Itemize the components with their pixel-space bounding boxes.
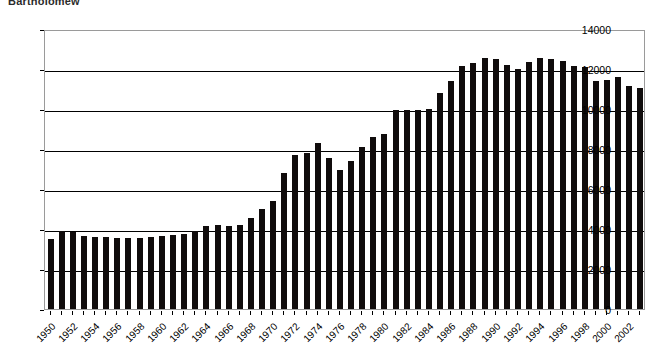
bar bbox=[215, 225, 221, 309]
bar bbox=[137, 238, 143, 309]
y-axis-tick-label: 14000 bbox=[551, 25, 611, 35]
x-axis-tick-mark bbox=[439, 311, 440, 315]
x-axis-tick-mark bbox=[495, 311, 496, 315]
x-axis-tick-mark bbox=[617, 311, 618, 315]
x-axis-tick-mark bbox=[584, 311, 585, 315]
x-axis-tick-mark bbox=[517, 311, 518, 315]
y-axis-tick-label: 2000 bbox=[551, 265, 611, 275]
x-axis-tick-mark bbox=[150, 311, 151, 315]
bar bbox=[459, 66, 465, 309]
x-axis-tick-mark bbox=[250, 311, 251, 315]
x-axis-tick-mark bbox=[550, 311, 551, 315]
x-axis-tick-mark bbox=[639, 311, 640, 315]
bar bbox=[248, 218, 254, 309]
x-axis-tick-mark bbox=[573, 311, 574, 315]
bar bbox=[270, 201, 276, 309]
x-axis-tick-mark bbox=[105, 311, 106, 315]
x-axis-tick-mark bbox=[306, 311, 307, 315]
bar bbox=[470, 63, 476, 309]
y-axis-tick-mark bbox=[40, 310, 44, 311]
x-axis-tick-mark bbox=[94, 311, 95, 315]
x-axis-tick-mark bbox=[261, 311, 262, 315]
bar bbox=[48, 239, 54, 309]
x-axis-tick-mark bbox=[294, 311, 295, 315]
x-axis-tick-mark bbox=[406, 311, 407, 315]
bar bbox=[515, 69, 521, 309]
bar bbox=[304, 153, 310, 309]
x-axis-tick-mark bbox=[606, 311, 607, 315]
x-axis-tick-mark bbox=[461, 311, 462, 315]
x-axis-tick-mark bbox=[127, 311, 128, 315]
y-axis-tick-mark bbox=[40, 230, 44, 231]
x-axis-tick-mark bbox=[139, 311, 140, 315]
bar bbox=[404, 110, 410, 309]
x-axis-tick-mark bbox=[317, 311, 318, 315]
x-axis-tick-mark bbox=[194, 311, 195, 315]
bar bbox=[226, 226, 232, 309]
y-axis-tick-mark bbox=[40, 150, 44, 151]
bar bbox=[326, 158, 332, 309]
x-axis-tick-mark bbox=[50, 311, 51, 315]
bar bbox=[337, 170, 343, 309]
bar bbox=[493, 59, 499, 309]
x-axis-tick-mark bbox=[205, 311, 206, 315]
bar bbox=[70, 232, 76, 309]
x-axis-tick-mark bbox=[350, 311, 351, 315]
y-axis-tick-label: 4000 bbox=[551, 225, 611, 235]
bar bbox=[181, 234, 187, 309]
bar bbox=[526, 62, 532, 309]
bar bbox=[281, 173, 287, 309]
bar bbox=[348, 161, 354, 309]
x-axis-tick-mark bbox=[562, 311, 563, 315]
x-axis-tick-mark bbox=[595, 311, 596, 315]
bar bbox=[192, 231, 198, 309]
x-axis-tick-mark bbox=[283, 311, 284, 315]
x-axis-tick-mark bbox=[428, 311, 429, 315]
x-axis-tick-mark bbox=[372, 311, 373, 315]
x-axis-tick-mark bbox=[628, 311, 629, 315]
bar bbox=[203, 226, 209, 309]
y-axis-tick-label: 12000 bbox=[551, 65, 611, 75]
bar bbox=[103, 237, 109, 309]
y-axis-tick-label: 6000 bbox=[551, 185, 611, 195]
x-axis-tick-mark bbox=[528, 311, 529, 315]
y-axis-tick-label: 8000 bbox=[551, 145, 611, 155]
bar bbox=[448, 81, 454, 309]
x-axis-tick-mark bbox=[72, 311, 73, 315]
bar bbox=[359, 147, 365, 309]
chart-page: Bartholomew 0200040006000800010000120001… bbox=[0, 0, 658, 363]
y-axis-tick-mark bbox=[40, 270, 44, 271]
x-axis-tick-mark bbox=[161, 311, 162, 315]
bar bbox=[415, 110, 421, 309]
bar bbox=[637, 88, 643, 309]
bar bbox=[504, 65, 510, 309]
bar bbox=[159, 236, 165, 309]
y-axis-tick-label: 0 bbox=[551, 305, 611, 315]
y-axis bbox=[0, 0, 44, 363]
x-axis-tick-mark bbox=[417, 311, 418, 315]
bar bbox=[81, 236, 87, 309]
x-axis-tick-mark bbox=[172, 311, 173, 315]
bar bbox=[537, 58, 543, 309]
bar bbox=[615, 77, 621, 309]
bar bbox=[370, 137, 376, 309]
x-axis-tick-mark bbox=[484, 311, 485, 315]
x-axis-tick-mark bbox=[450, 311, 451, 315]
bar bbox=[170, 235, 176, 309]
bar bbox=[393, 110, 399, 309]
y-axis-tick-mark bbox=[40, 110, 44, 111]
bar bbox=[381, 134, 387, 309]
x-axis-tick-mark bbox=[339, 311, 340, 315]
x-axis-tick-mark bbox=[116, 311, 117, 315]
x-axis-tick-mark bbox=[183, 311, 184, 315]
bar bbox=[92, 237, 98, 309]
x-axis-tick-mark bbox=[217, 311, 218, 315]
bar bbox=[437, 93, 443, 309]
bar bbox=[114, 238, 120, 309]
bar bbox=[259, 209, 265, 309]
bar bbox=[237, 225, 243, 309]
bar bbox=[626, 86, 632, 309]
bar bbox=[59, 231, 65, 309]
bar bbox=[315, 143, 321, 309]
x-axis-tick-mark bbox=[228, 311, 229, 315]
